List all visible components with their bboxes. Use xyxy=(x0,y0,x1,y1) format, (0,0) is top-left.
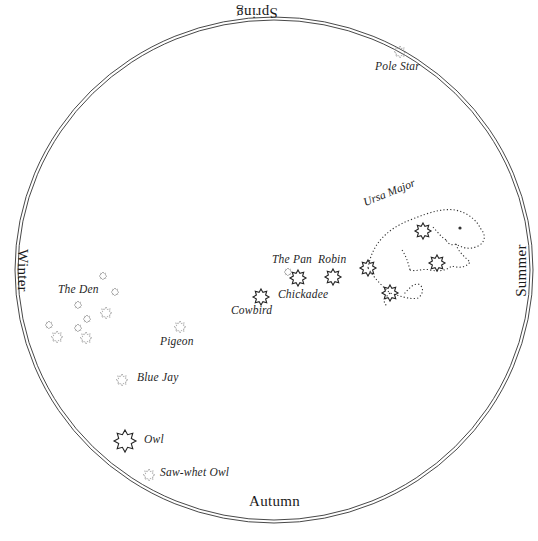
star-chart xyxy=(0,0,538,541)
label-pole-star: Pole Star xyxy=(375,60,420,72)
star-icon-ursa-3 xyxy=(429,255,445,271)
star-icon-den-8 xyxy=(51,331,63,343)
season-label-summer: Summer xyxy=(513,238,530,304)
star-icon-den-6 xyxy=(45,321,53,329)
sky-circle xyxy=(15,17,533,523)
star-icon-saw-whet-owl xyxy=(143,469,155,481)
star-icon-den-4 xyxy=(100,307,112,319)
label-chickadee: Chickadee xyxy=(278,288,328,300)
star-icon-blue-jay xyxy=(116,374,128,386)
season-label-winter: Winter xyxy=(14,243,31,299)
star-icon-chickadee xyxy=(290,270,306,286)
star-icon-den-1 xyxy=(99,272,107,280)
star-icon-the-pan xyxy=(284,268,292,276)
label-the-den: The Den xyxy=(58,283,99,295)
star-icon-den-7 xyxy=(74,324,82,332)
label-saw-whet-owl: Saw-whet Owl xyxy=(160,466,229,478)
star-icon-den-9 xyxy=(80,332,92,344)
season-label-spring: Spring xyxy=(236,4,278,21)
label-the-pan: The Pan xyxy=(272,253,312,265)
label-pigeon: Pigeon xyxy=(160,335,194,347)
star-icon-pigeon xyxy=(174,321,186,333)
star-icon-den-3 xyxy=(74,301,82,309)
star-icon-den-5 xyxy=(83,315,91,323)
star-icon-ursa-1 xyxy=(415,223,431,239)
label-owl: Owl xyxy=(144,433,164,445)
star-icon-cowbird xyxy=(253,289,269,305)
label-cowbird: Cowbird xyxy=(231,304,272,316)
star-icon-owl xyxy=(114,430,136,452)
label-blue-jay: Blue Jay xyxy=(137,371,179,383)
label-robin: Robin xyxy=(318,253,346,265)
star-icon-robin xyxy=(325,269,341,285)
season-label-autumn: Autumn xyxy=(249,493,300,510)
star-icon-den-2 xyxy=(111,288,119,296)
star-field xyxy=(45,46,445,481)
